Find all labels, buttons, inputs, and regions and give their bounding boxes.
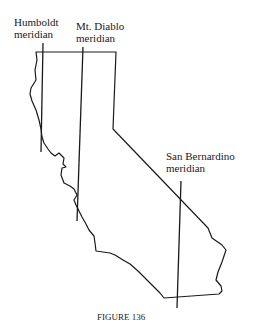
mt-diablo-label-line1: Mt. Diablo	[76, 20, 125, 32]
san-bernardino-label-line1: San Bernardino	[166, 150, 235, 162]
figure-caption: FIGURE 136	[97, 312, 146, 322]
mt-diablo-meridian-line	[77, 47, 83, 221]
humboldt-label-line2: meridian	[14, 28, 54, 40]
california-meridians-figure: Humboldt meridian Mt. Diablo meridian Sa…	[0, 0, 253, 329]
humboldt-label-line1: Humboldt	[14, 16, 59, 28]
california-outline	[30, 52, 226, 298]
san-bernardino-meridian-line	[177, 181, 181, 308]
mt-diablo-label-line2: meridian	[76, 32, 116, 44]
san-bernardino-label-line2: meridian	[166, 162, 206, 174]
